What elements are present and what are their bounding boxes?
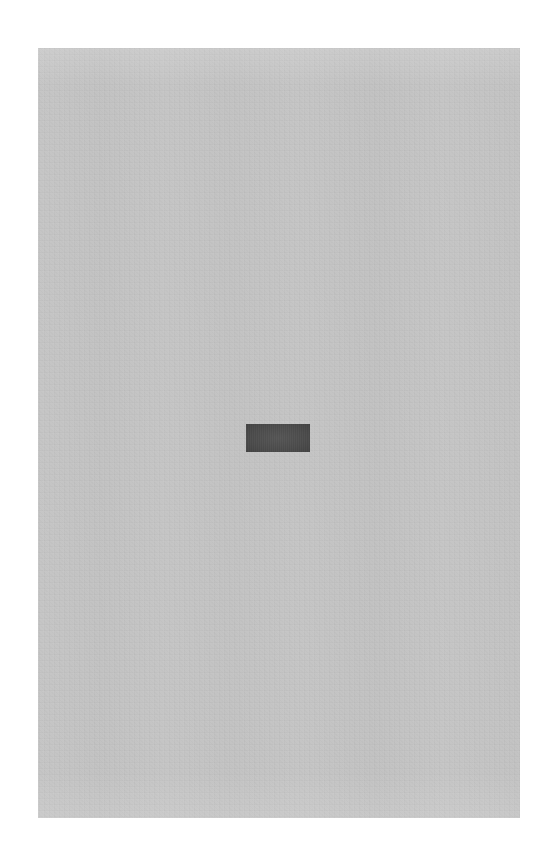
- screen-root: [0, 0, 541, 862]
- content-panel: [38, 48, 520, 818]
- placeholder-block[interactable]: [246, 424, 310, 452]
